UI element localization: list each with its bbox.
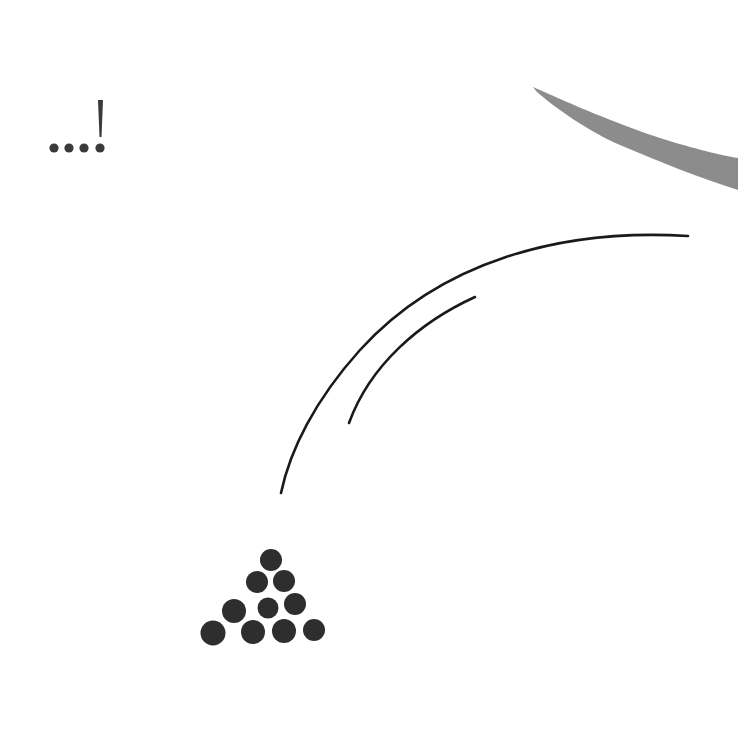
dot (284, 593, 306, 615)
dot (258, 598, 279, 619)
dot-triangle-icon (201, 549, 326, 646)
dot (260, 549, 282, 571)
illustration-canvas (0, 0, 738, 740)
dot (303, 619, 325, 641)
dot (246, 571, 268, 593)
dot (241, 620, 265, 644)
dot (273, 570, 295, 592)
dot (201, 621, 226, 646)
ellipsis-exclamation-icon (49, 100, 104, 153)
inner-arc-line (349, 297, 475, 423)
outer-arc-line (281, 235, 688, 493)
swoosh-shape (533, 87, 738, 190)
dot (222, 599, 246, 623)
dot (272, 619, 296, 643)
